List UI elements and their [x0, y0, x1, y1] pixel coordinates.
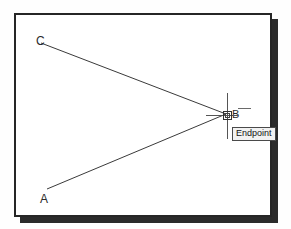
label-leader-tick: [238, 108, 251, 109]
line-segment-cb[interactable]: [41, 43, 226, 114]
endpoint-snap-marker-inner-icon: [225, 113, 230, 118]
crosshair-horizontal-icon: [206, 115, 238, 116]
vertex-label-a: A: [40, 193, 48, 205]
cad-screenshot: C A B Endpoint: [0, 0, 291, 229]
line-segment-ab[interactable]: [47, 114, 226, 189]
vertex-label-c: C: [36, 35, 45, 47]
osnap-tooltip: Endpoint: [232, 127, 276, 141]
cad-drawing-frame: C A B Endpoint: [14, 13, 272, 217]
